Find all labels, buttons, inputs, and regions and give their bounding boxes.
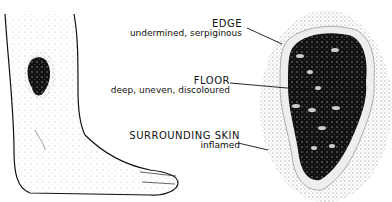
surrounding-skin-label: SURROUNDING SKIN inflamed bbox=[129, 130, 240, 151]
leg-drawing bbox=[5, 14, 178, 195]
edge-leader bbox=[247, 28, 282, 44]
enlarged-ulcer bbox=[260, 10, 392, 202]
edge-label: EDGE undermined, serpiginous bbox=[130, 18, 242, 39]
ulcer-diagram: EDGE undermined, serpiginous FLOOR deep,… bbox=[0, 0, 392, 202]
leg-ulcer bbox=[24, 51, 56, 99]
floor-label: FLOOR deep, uneven, discoloured bbox=[111, 75, 230, 96]
surrounding-leader bbox=[238, 143, 268, 150]
